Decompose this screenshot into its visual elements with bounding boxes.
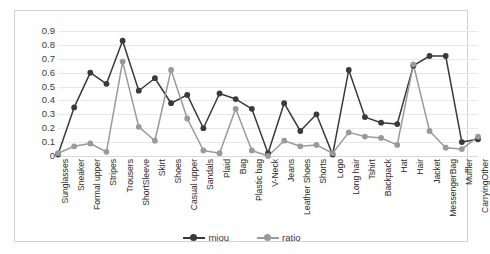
x-axis-tick-label: Sneaker [74, 127, 83, 159]
y-axis-tick-label: 0.7 [42, 54, 55, 64]
x-axis-tick-label: Skirt [155, 142, 164, 159]
data-point-miou [314, 111, 320, 117]
data-point-miou [362, 114, 368, 120]
data-point-miou [217, 91, 223, 97]
x-axis-tick-label: Muffler [462, 133, 471, 159]
x-axis-tick-label: Shorts [316, 134, 325, 159]
y-axis-tick-label: 0.1 [42, 137, 55, 147]
y-axis-tick-label: 0.2 [42, 123, 55, 133]
x-axis-tick-label: Logo [333, 140, 342, 159]
chart-legend: miouratio [15, 233, 469, 243]
data-point-miou [71, 104, 77, 110]
legend-item-miou[interactable]: miou [183, 233, 229, 243]
data-point-ratio [410, 61, 416, 67]
data-point-ratio [120, 59, 126, 65]
x-axis-tick-label: Casual upper [187, 108, 196, 159]
y-axis-tick-label: 0.3 [42, 110, 55, 120]
legend-marker-icon [183, 233, 205, 242]
y-axis-tick-label: 0.8 [42, 40, 55, 50]
y-axis-tick-label: 0.5 [42, 82, 55, 92]
x-axis-tick-label: Sunglasses [58, 115, 67, 159]
x-axis-tick-label: Hat [397, 146, 406, 159]
legend-marker-icon [257, 233, 279, 242]
data-point-miou [249, 106, 255, 112]
data-point-miou [168, 100, 174, 106]
x-axis-tick-label: CarryingOther [478, 105, 487, 159]
data-point-ratio [233, 106, 239, 112]
x-axis-tick-label: MessengerBag [446, 101, 455, 159]
data-point-ratio [168, 67, 174, 73]
x-axis-tick-label: Leather Shoes [300, 103, 309, 159]
data-point-miou [120, 38, 126, 44]
x-axis-tick-label: Plaid [220, 140, 229, 159]
y-axis-tick-label: 0.4 [42, 96, 55, 106]
chart-container: 0.90.80.70.60.50.40.30.20.10 SunglassesS… [14, 10, 468, 242]
x-axis-tick-label: Bag [236, 144, 245, 159]
x-axis-tick-label: Formal upper [90, 108, 99, 159]
legend-label: miou [208, 233, 229, 243]
x-axis-tick-label: ShortSleeve [139, 112, 148, 159]
x-axis-tick-label: Plastic bag [252, 117, 261, 159]
x-axis-tick-label: Shoes [171, 135, 180, 159]
x-axis: SunglassesSneakerFormal upperStripesTrou… [58, 159, 478, 227]
x-axis-tick-label: V-Neck [268, 131, 277, 159]
data-point-miou [427, 53, 433, 59]
y-axis-tick-label: 0 [50, 151, 55, 161]
data-point-miou [152, 75, 158, 81]
x-axis-tick-label: Jeans [284, 136, 293, 159]
data-point-miou [104, 81, 110, 87]
data-point-miou [87, 70, 93, 76]
y-axis-tick-label: 0.6 [42, 68, 55, 78]
data-point-miou [281, 100, 287, 106]
data-point-miou [443, 53, 449, 59]
x-axis-tick-label: Hair [413, 143, 422, 159]
legend-label: ratio [282, 233, 300, 243]
data-point-miou [346, 67, 352, 73]
data-point-miou [394, 121, 400, 127]
x-axis-tick-label: Trousers [123, 125, 132, 159]
x-axis-tick-label: Jacket [430, 134, 439, 159]
y-axis-tick-label: 0.9 [42, 26, 55, 36]
x-axis-tick-label: Sandals [203, 128, 212, 159]
x-axis-tick-label: Backpack [381, 122, 390, 159]
data-point-miou [233, 96, 239, 102]
x-axis-tick-label: Tshirt [365, 138, 374, 159]
legend-item-ratio[interactable]: ratio [257, 233, 300, 243]
x-axis-tick-label: Stripes [106, 132, 115, 159]
data-point-miou [184, 92, 190, 98]
data-point-ratio [427, 128, 433, 134]
data-point-miou [136, 88, 142, 94]
x-axis-tick-label: Long hair [349, 123, 358, 159]
y-axis: 0.90.80.70.60.50.40.30.20.10 [29, 31, 55, 156]
